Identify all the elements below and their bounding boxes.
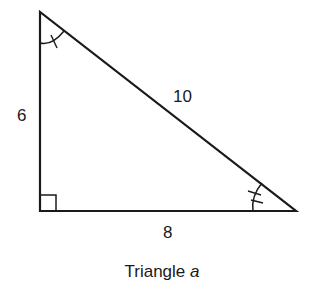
vertical-leg-label: 6 [17, 107, 26, 124]
hypotenuse-label: 10 [173, 88, 192, 105]
right-angle-mark [40, 195, 56, 211]
triangle-figure [0, 0, 324, 286]
triangle-outline [40, 12, 296, 211]
horizontal-leg-label: 8 [163, 224, 172, 241]
figure-caption: Triangle a [0, 262, 324, 282]
caption-prefix: Triangle [125, 262, 191, 281]
right-angle-arc [253, 183, 262, 211]
triangle-diagram: 6 10 8 Triangle a [0, 0, 324, 286]
caption-variable: a [190, 262, 199, 281]
